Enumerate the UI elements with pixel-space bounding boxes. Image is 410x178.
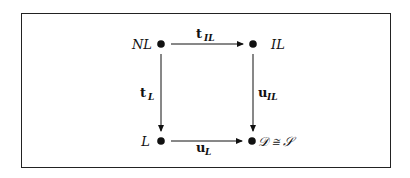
node-d-label: 𝒟 ≅ 𝒮 [258,134,297,149]
edge-label-u-l: u L [196,140,211,157]
node-nl-label: NL [131,37,152,52]
edge-label-t-l: t L [140,85,154,102]
svg-text:IL: IL [203,33,215,43]
node-il-label: IL [270,37,285,52]
node-nl-dot [157,40,165,48]
node-l-dot [157,137,165,145]
svg-text:L: L [147,92,154,102]
commutative-diagram: NL IL L 𝒟 ≅ 𝒮 t IL t L u IL u L [0,0,410,178]
svg-text:IL: IL [266,92,278,102]
svg-text:t: t [140,85,146,100]
node-il-dot [249,40,257,48]
svg-text:L: L [204,147,211,157]
svg-text:t: t [196,26,202,41]
node-d-dot [248,137,256,145]
edge-label-t-il: t IL [196,26,215,43]
node-l-label: L [140,134,150,149]
edge-label-u-il: u IL [258,85,278,102]
